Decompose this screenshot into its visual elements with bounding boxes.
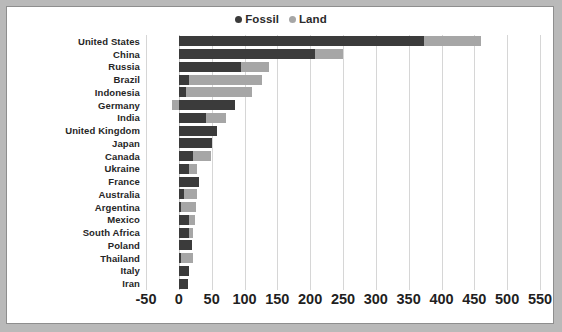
y-axis-label: India xyxy=(7,112,146,125)
y-axis-label: United Kingdom xyxy=(7,124,146,137)
bar-segment-fossil[interactable] xyxy=(179,113,207,123)
bar-row[interactable] xyxy=(146,175,540,188)
chart-frame: Fossil Land United StatesChinaRussiaBraz… xyxy=(6,6,554,324)
bar-segment-land[interactable] xyxy=(189,75,262,85)
bar-row[interactable] xyxy=(146,150,540,163)
x-axis-tick: 500 xyxy=(495,291,519,307)
bar-segment-fossil[interactable] xyxy=(179,62,241,72)
y-axis-label: Ukraine xyxy=(7,163,146,176)
bar-segment-fossil[interactable] xyxy=(179,240,192,250)
x-axis-tick-labels: -50050100150200250300350400450500550 xyxy=(146,291,540,317)
bar-row[interactable] xyxy=(146,188,540,201)
legend-item-fossil[interactable]: Fossil xyxy=(235,13,279,25)
bar-segment-fossil[interactable] xyxy=(179,138,212,148)
bar-segment-fossil[interactable] xyxy=(179,266,189,276)
bar-row[interactable] xyxy=(146,277,540,290)
chart-plot-area: Fossil Land United StatesChinaRussiaBraz… xyxy=(7,7,555,325)
gridline xyxy=(540,35,541,290)
bar-segment-land[interactable] xyxy=(189,215,195,225)
bar-row[interactable] xyxy=(146,163,540,176)
bar-row[interactable] xyxy=(146,61,540,74)
legend-label-land: Land xyxy=(299,13,327,25)
x-axis-tick: 100 xyxy=(232,291,256,307)
bar-segment-land[interactable] xyxy=(241,62,269,72)
bar-segment-land[interactable] xyxy=(315,49,343,59)
x-axis-tick: 450 xyxy=(462,291,486,307)
bar-rows xyxy=(146,35,540,290)
bar-segment-land[interactable] xyxy=(172,100,179,110)
y-axis-label: Argentina xyxy=(7,201,146,214)
bar-row[interactable] xyxy=(146,226,540,239)
bar-segment-fossil[interactable] xyxy=(179,279,188,289)
y-axis-label: Thailand xyxy=(7,252,146,265)
y-axis-label: Poland xyxy=(7,239,146,252)
y-axis-label: United States xyxy=(7,35,146,48)
x-axis-tick: -50 xyxy=(136,291,157,307)
y-axis-label: Germany xyxy=(7,99,146,112)
bar-segment-land[interactable] xyxy=(193,151,211,161)
bar-row[interactable] xyxy=(146,252,540,265)
y-axis-label: Brazil xyxy=(7,73,146,86)
y-axis-category-labels: United StatesChinaRussiaBrazilIndonesiaG… xyxy=(7,35,146,290)
bar-row[interactable] xyxy=(146,239,540,252)
y-axis-label: Russia xyxy=(7,61,146,74)
bar-segment-fossil[interactable] xyxy=(179,228,189,238)
x-axis-tick: 400 xyxy=(429,291,453,307)
y-axis-label: Mexico xyxy=(7,214,146,227)
bar-segment-land[interactable] xyxy=(186,87,252,97)
y-axis-label: South Africa xyxy=(7,226,146,239)
x-axis-tick: 150 xyxy=(265,291,289,307)
bar-segment-fossil[interactable] xyxy=(179,126,217,136)
y-axis-label: Indonesia xyxy=(7,86,146,99)
bar-segment-fossil[interactable] xyxy=(179,177,199,187)
bar-segment-land[interactable] xyxy=(181,202,196,212)
x-axis-tick: 0 xyxy=(175,291,183,307)
bar-segment-fossil[interactable] xyxy=(179,100,235,110)
bar-segment-land[interactable] xyxy=(181,253,193,263)
y-axis-label: Canada xyxy=(7,150,146,163)
bar-row[interactable] xyxy=(146,124,540,137)
legend-label-fossil: Fossil xyxy=(245,13,279,25)
bar-row[interactable] xyxy=(146,48,540,61)
bar-segment-land[interactable] xyxy=(206,113,226,123)
x-axis-tick: 250 xyxy=(331,291,355,307)
bar-segment-fossil[interactable] xyxy=(179,164,189,174)
bar-segment-land[interactable] xyxy=(189,228,194,238)
bar-segment-fossil[interactable] xyxy=(179,75,189,85)
legend-marker-land xyxy=(289,16,296,23)
y-axis-label: Japan xyxy=(7,137,146,150)
bar-row[interactable] xyxy=(146,137,540,150)
x-axis-tick: 200 xyxy=(298,291,322,307)
bar-row[interactable] xyxy=(146,73,540,86)
bar-segment-fossil[interactable] xyxy=(179,49,315,59)
bar-segment-fossil[interactable] xyxy=(179,151,193,161)
x-axis-tick: 300 xyxy=(364,291,388,307)
bar-segment-land[interactable] xyxy=(424,36,481,46)
x-axis-tick: 550 xyxy=(528,291,552,307)
bar-segment-fossil[interactable] xyxy=(179,36,424,46)
bar-segment-fossil[interactable] xyxy=(179,87,186,97)
y-axis-label: China xyxy=(7,48,146,61)
bar-row[interactable] xyxy=(146,86,540,99)
legend-item-land[interactable]: Land xyxy=(289,13,327,25)
y-axis-label: Australia xyxy=(7,188,146,201)
y-axis-label: Iran xyxy=(7,277,146,290)
bar-row[interactable] xyxy=(146,112,540,125)
bars-canvas xyxy=(146,35,540,290)
bar-segment-fossil[interactable] xyxy=(179,215,189,225)
y-axis-label: France xyxy=(7,175,146,188)
y-axis-label: Italy xyxy=(7,265,146,278)
x-axis-tick: 350 xyxy=(397,291,421,307)
bar-row[interactable] xyxy=(146,214,540,227)
bar-row[interactable] xyxy=(146,265,540,278)
bar-segment-land[interactable] xyxy=(189,164,197,174)
bar-row[interactable] xyxy=(146,201,540,214)
bar-segment-land[interactable] xyxy=(184,189,196,199)
bar-row[interactable] xyxy=(146,35,540,48)
chart-legend: Fossil Land xyxy=(7,13,555,25)
legend-marker-fossil xyxy=(235,16,242,23)
bar-row[interactable] xyxy=(146,99,540,112)
x-axis-tick: 50 xyxy=(204,291,220,307)
